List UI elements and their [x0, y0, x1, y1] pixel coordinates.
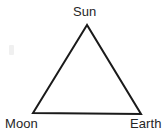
scan-artifact-smudge: [9, 45, 14, 55]
vertex-label-earth: Earth: [130, 117, 162, 130]
diagram-canvas: Sun Moon Earth: [0, 0, 168, 137]
vertex-label-moon: Moon: [5, 117, 38, 130]
triangle-outline: [33, 25, 141, 114]
vertex-label-sun: Sun: [73, 5, 96, 18]
